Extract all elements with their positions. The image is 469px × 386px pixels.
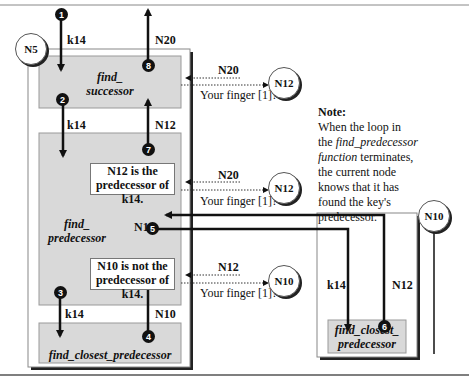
label-k14-low: k14 (65, 307, 84, 322)
function-name-line: successor (80, 84, 140, 98)
note-text: Note: When the loop in the find_predeces… (318, 105, 438, 225)
note-line: predecessor. (318, 210, 438, 225)
result-line: predecessor of k14. (91, 273, 174, 301)
message-question-1: Your finger [1]? (200, 88, 277, 103)
node-label: N12 (275, 77, 294, 89)
node-n12-mid: N12 (268, 172, 300, 204)
result-line: N12 is the (91, 164, 174, 178)
step-8-marker: 8 (142, 59, 155, 72)
note-line: knows that it has (318, 180, 438, 195)
node-n5: N5 (15, 33, 47, 65)
function-name-line: find_ (80, 70, 140, 84)
label-k14-mid: k14 (67, 118, 86, 133)
message-question-3: Your finger [1]? (200, 286, 277, 301)
message-question-2: Your finger [1]? (200, 194, 277, 209)
function-name-line: predecessor (42, 231, 112, 245)
result-not-predecessor: N10 is not the predecessor of k14. (90, 258, 175, 290)
step-4-marker: 4 (142, 330, 155, 343)
step-7-marker: 7 (142, 143, 155, 156)
function-find-closest-predecessor: find_closest_predecessor (39, 348, 181, 362)
node-label: N10 (275, 275, 294, 287)
function-name-line: find_closest_ (328, 323, 406, 337)
function-name-line: predecessor (328, 337, 406, 351)
note-line: When the loop in (318, 120, 438, 135)
result-line: N10 is not the (91, 259, 174, 273)
message-reply-1: N20 (218, 63, 239, 78)
note-line: found the key's (318, 195, 438, 210)
node-n5-label: N5 (24, 43, 37, 55)
node-label: N12 (275, 182, 294, 194)
step-2-marker: 2 (56, 93, 69, 106)
function-remote-closest-predecessor: find_closest_ predecessor (328, 323, 406, 351)
message-reply-3: N12 (218, 260, 239, 275)
step-5-marker: 5 (146, 222, 159, 235)
function-find-predecessor: find_ predecessor (42, 217, 112, 245)
node-n12-top: N12 (268, 67, 300, 99)
result-is-predecessor: N12 is the predecessor of k14. (90, 163, 175, 195)
note-title: Note: (318, 105, 346, 119)
note-italic: find_predecessor (336, 135, 418, 149)
note-line: the current node (318, 165, 438, 180)
step-1-marker: 1 (55, 8, 68, 21)
step-3-marker: 3 (54, 286, 67, 299)
note-line: the (318, 135, 336, 149)
function-name-line: find_ (42, 217, 112, 231)
node-n10-small: N10 (268, 265, 300, 297)
label-n10-low: N10 (155, 307, 176, 322)
label-n20-top: N20 (155, 33, 176, 48)
function-find-successor: find_ successor (80, 70, 140, 98)
label-n12-mid: N12 (155, 118, 176, 133)
step-6-marker: 6 (378, 320, 391, 333)
note-italic: function (318, 150, 357, 164)
label-k14-top: k14 (67, 33, 86, 48)
note-line: terminates, (357, 150, 413, 164)
message-reply-2: N20 (218, 168, 239, 183)
result-line: predecessor of k14. (91, 178, 174, 206)
function-name-line: find_closest_predecessor (39, 348, 181, 362)
label-k14-right: k14 (327, 278, 346, 293)
label-n12-right: N12 (392, 278, 413, 293)
